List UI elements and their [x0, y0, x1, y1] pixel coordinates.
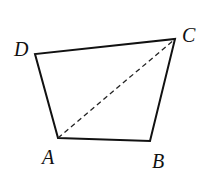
vertex-label-a: A: [40, 146, 55, 168]
diagram-canvas: A B C D: [0, 0, 213, 171]
vertex-label-d: D: [13, 38, 29, 60]
vertex-label-b: B: [152, 150, 164, 171]
vertex-label-c: C: [182, 24, 196, 46]
diagonal-ac: [58, 39, 175, 138]
quadrilateral-abcd: [35, 39, 175, 141]
quadrilateral-diagram: A B C D: [0, 0, 213, 171]
